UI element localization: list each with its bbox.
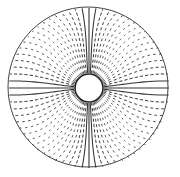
field-line [101,97,154,134]
field-line [98,22,135,75]
field-line [98,100,135,153]
field-line [10,91,74,102]
field-line [49,101,82,157]
field-line [9,89,74,95]
field-line [10,74,74,85]
field-line [32,31,78,77]
field-line [95,16,122,75]
field-line [100,31,146,77]
field-line [68,11,85,74]
field-svg [0,0,180,177]
field-line [100,99,146,145]
field-line [95,102,122,161]
field-line [32,99,78,145]
field-line [97,19,130,75]
field-line [43,22,80,75]
field-line [20,96,76,129]
vector-field-diagram [0,0,180,177]
inner-circle [75,74,103,102]
field-line [23,42,76,79]
field-line [102,96,158,129]
field-line [102,48,158,81]
field-line [55,16,82,75]
field-line [104,74,168,85]
field-line [49,19,82,75]
field-line [104,91,168,102]
field-line [104,81,169,87]
field-line [101,42,154,79]
field-line [68,102,85,165]
field-line [93,102,110,165]
field-line [97,101,130,157]
field-line [43,100,80,153]
field-line [9,81,74,87]
field-line [104,89,169,95]
field-line [20,48,76,81]
field-line [93,11,110,74]
field-line [55,102,82,161]
field-line [23,97,76,134]
